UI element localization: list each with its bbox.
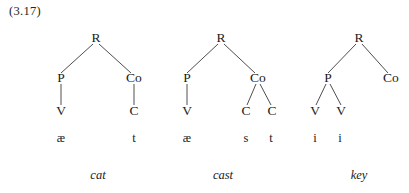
word-label-key: key (351, 169, 368, 182)
branch-p-to-v2-tree3 (330, 84, 341, 105)
branch-p-to-v1-tree3 (316, 84, 326, 105)
node-v2-tree3: V (336, 104, 346, 118)
node-peak-tree1: P (57, 71, 65, 85)
node-v-tree2: V (182, 104, 192, 118)
node-coda-tree2: Co (250, 71, 266, 85)
word-label-cast: cast (213, 169, 233, 182)
branch-co-to-c1-tree2 (247, 84, 256, 105)
node-coda-tree1: Co (126, 71, 142, 85)
branch-r-to-p-tree3 (328, 44, 356, 73)
branch-r-to-co-tree1 (99, 44, 131, 73)
node-root-tree1: R (91, 31, 100, 45)
node-root-tree2: R (216, 31, 225, 45)
word-label-cat: cat (90, 169, 105, 182)
example-number: (3.17) (9, 4, 41, 19)
branch-r-to-co-tree2 (224, 44, 255, 73)
branch-r-to-p-tree1 (61, 44, 93, 73)
leaf-segment-tree2-3: t (269, 132, 272, 145)
leaf-segment-tree2-2: s (244, 132, 249, 145)
branch-r-to-p-tree2 (187, 44, 218, 73)
tree-branch-lines (0, 0, 409, 193)
leaf-segment-tree3-1: i (313, 132, 316, 145)
node-coda-tree3: Co (383, 71, 399, 85)
node-v-tree1: V (56, 104, 66, 118)
node-c2-tree2: C (267, 104, 276, 118)
leaf-segment-tree2-1: æ (183, 132, 191, 145)
branch-r-to-co-tree3 (362, 44, 388, 73)
node-peak-tree2: P (183, 71, 191, 85)
branch-co-to-c2-tree2 (260, 84, 271, 105)
node-v1-tree3: V (310, 104, 320, 118)
leaf-segment-tree1-2: t (132, 132, 135, 145)
syllable-structure-figure: (3.17) R P Co V C æ t cat R P Co V C (0, 0, 409, 193)
leaf-segment-tree1-1: æ (57, 132, 65, 145)
node-c-tree1: C (129, 104, 138, 118)
node-root-tree3: R (354, 31, 363, 45)
leaf-segment-tree3-2: i (338, 132, 341, 145)
node-peak-tree3: P (324, 71, 332, 85)
node-c1-tree2: C (241, 104, 250, 118)
